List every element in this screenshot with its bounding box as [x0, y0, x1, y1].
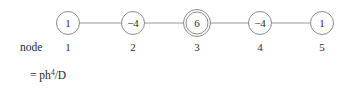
row-label-node: node	[20, 41, 42, 53]
stencil-figure: 1−46−41 12345 node = ph4/D	[0, 0, 348, 89]
formula-denominator: /D	[55, 69, 67, 81]
node-index-label: 4	[257, 41, 263, 53]
stencil-node[interactable]: 1	[57, 12, 80, 35]
formula-base: = ph	[30, 69, 51, 82]
formula-label: = ph4/D	[30, 68, 66, 82]
node-value-label: −4	[254, 17, 266, 29]
node-value-label: 1	[319, 17, 325, 29]
stencil-node[interactable]: −4	[249, 12, 272, 35]
stencil-diagram-svg: 1−46−41 12345 node = ph4/D	[0, 0, 348, 89]
stencil-node[interactable]: 6	[184, 10, 211, 37]
stencil-node[interactable]: −4	[122, 12, 145, 35]
node-index-label: 2	[130, 41, 136, 53]
node-index-label: 5	[319, 41, 325, 53]
node-index-label: 1	[65, 41, 71, 53]
node-value-label: 1	[65, 17, 71, 29]
node-value-label: −4	[127, 17, 139, 29]
node-index-labels-group: 12345	[65, 41, 325, 53]
node-index-label: 3	[194, 41, 200, 53]
node-value-label: 6	[194, 17, 200, 29]
stencil-node[interactable]: 1	[311, 12, 334, 35]
